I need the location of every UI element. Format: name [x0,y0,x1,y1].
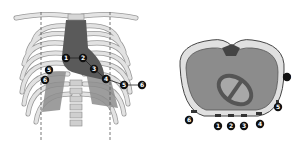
svg-text:3: 3 [242,122,246,129]
right-marker-3: 3 [240,122,248,130]
cross-section-figure [180,40,286,117]
svg-text:3: 3 [92,65,96,72]
right-marker-6: 6 [283,73,295,81]
ecg-lead-placement-diagram: 1 2 3 4 5 6 5 6 1 2 3 4 5 6 6 [0,0,305,149]
svg-text:2: 2 [229,122,233,129]
svg-text:1: 1 [216,122,220,129]
left-marker-6: 6 [138,81,146,89]
left-marker-1: 1 [62,54,70,62]
svg-text:4: 4 [104,75,108,82]
svg-text:2: 2 [81,54,85,61]
left-marker-5: 5 [120,81,128,89]
svg-text:5: 5 [47,66,51,73]
svg-text:6: 6 [140,81,144,88]
svg-text:4: 4 [258,120,262,127]
svg-text:5: 5 [122,81,126,88]
svg-text:5: 5 [276,103,280,110]
svg-text:6: 6 [187,116,191,123]
left-marker-2: 2 [79,54,87,62]
right-marker-2: 2 [227,122,235,130]
rib-cage-figure [16,12,142,142]
diagram-canvas: 1 2 3 4 5 6 5 6 1 2 3 4 5 6 6 [0,0,305,149]
svg-text:1: 1 [64,54,68,61]
right-marker-1: 1 [214,122,222,130]
svg-text:6: 6 [291,73,295,80]
left-marker-5b: 5 [45,66,53,74]
right-marker-6b: 6 [185,116,193,124]
right-marker-5: 5 [274,103,282,111]
left-marker-6b: 6 [41,76,49,84]
right-marker-4: 4 [256,120,264,128]
left-marker-4: 4 [102,75,110,83]
left-marker-3: 3 [90,65,98,73]
svg-text:6: 6 [43,76,47,83]
